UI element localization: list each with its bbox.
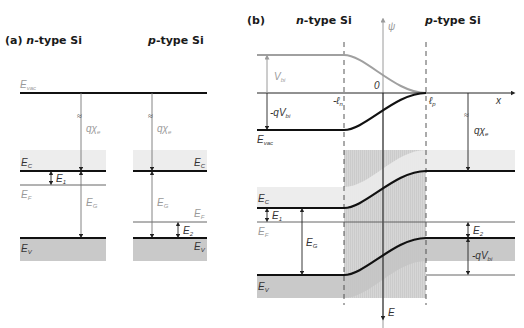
- x-axis-label: x: [495, 95, 502, 106]
- label-p-EF: EF: [194, 208, 205, 220]
- label-p-qchi: qχe: [157, 123, 172, 135]
- label-n-E1: E1: [272, 210, 282, 222]
- label-p-EG: EG: [157, 197, 169, 209]
- label-n-EG: EG: [306, 237, 318, 249]
- label-E-vac: Evac: [257, 134, 273, 146]
- label-p-E2: E2: [183, 225, 194, 237]
- panel-b-title-p: p-type Si: [424, 14, 481, 27]
- panel-b: (b) n-type Si p-type Si ψ E x 0 -ℓn ℓp V…: [247, 14, 515, 328]
- potential-curve: [257, 55, 426, 93]
- n-break-mark: ≈: [77, 111, 82, 121]
- panel-a-title-n: (a) n-type Si: [5, 34, 82, 47]
- p-break-mark: ≈: [148, 111, 153, 121]
- panel-b-title-n: n-type Si: [296, 14, 352, 27]
- panel-a-title-p: p-type Si: [147, 34, 204, 47]
- n-valence-band-shade: [20, 238, 106, 261]
- p-valence-band-shade: [426, 238, 515, 261]
- label-n-qchi: qχe: [86, 123, 101, 135]
- label-n-E1: E1: [56, 173, 66, 185]
- energy-axis-label: E: [388, 307, 395, 318]
- p-conduction-band-shade: [426, 150, 515, 171]
- label-n-EG: EG: [86, 197, 98, 209]
- lp-label: ℓp: [428, 95, 436, 107]
- label-n-EF: EF: [258, 226, 269, 238]
- n-valence-band-shade: [257, 275, 344, 298]
- label-Vbi: Vbi: [274, 71, 286, 83]
- label-qchi: qχe: [474, 125, 489, 137]
- break-mark: ≈: [464, 110, 469, 120]
- psi-axis-label: ψ: [388, 21, 396, 32]
- label-n-EF: EF: [21, 189, 32, 201]
- label-minus-qVbi-top: -qVbi: [270, 107, 291, 119]
- pn-junction-band-diagram: (a) n-type Si p-type Si Evac ≈ qχe EG E1…: [0, 0, 524, 328]
- minus-ln-label: -ℓn: [333, 95, 344, 107]
- n-conduction-band-shade: [257, 187, 344, 208]
- n-conduction-band-shade: [20, 150, 106, 171]
- label-E-vac: Evac: [20, 79, 36, 91]
- origin-label: 0: [374, 80, 380, 91]
- label-p-E2: E2: [473, 225, 484, 237]
- panel-b-label: (b): [247, 14, 265, 27]
- panel-a: (a) n-type Si p-type Si Evac ≈ qχe EG E1…: [5, 34, 207, 261]
